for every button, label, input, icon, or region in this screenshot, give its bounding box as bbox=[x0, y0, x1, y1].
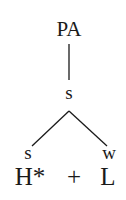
tone-plus: + bbox=[67, 164, 81, 189]
leaf-weak: w bbox=[102, 143, 116, 162]
tone-l: L bbox=[100, 164, 115, 189]
node-strong: s bbox=[65, 83, 72, 102]
edge-s-to-right-w bbox=[69, 111, 107, 146]
leaf-strong: s bbox=[24, 143, 31, 162]
root-node-pa: PA bbox=[57, 19, 82, 40]
edge-s-to-left-s bbox=[32, 111, 69, 146]
tone-h-star: H* bbox=[15, 164, 46, 189]
